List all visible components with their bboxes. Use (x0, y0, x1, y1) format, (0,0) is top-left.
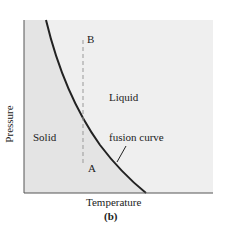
liquid-label: Liquid (109, 91, 138, 103)
fusion-curve-label: fusion curve (109, 131, 164, 143)
y-axis-label: Pressure (3, 105, 15, 142)
x-axis-label: Temperature (86, 196, 141, 208)
solid-label: Solid (33, 131, 56, 143)
point-a-label: A (88, 162, 96, 174)
point-b-label: B (87, 33, 94, 45)
panel-label: (b) (104, 210, 117, 222)
